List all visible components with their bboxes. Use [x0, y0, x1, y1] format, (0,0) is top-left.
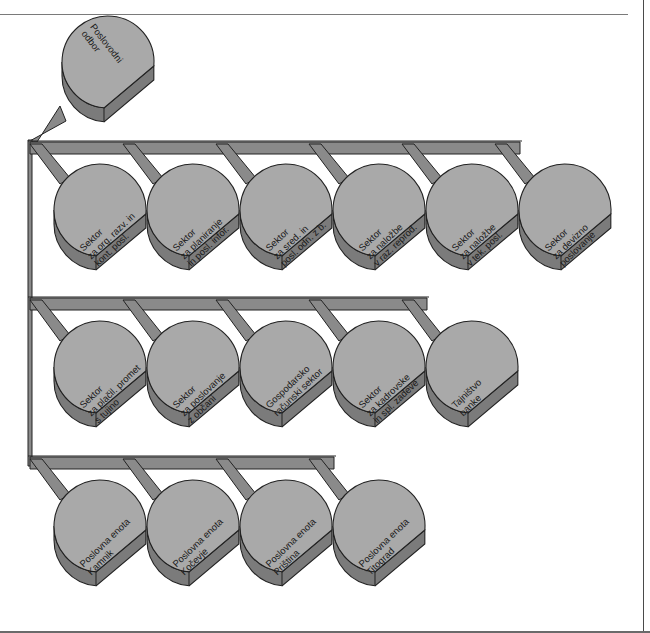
- bus-bar-row-3: [30, 457, 334, 469]
- root-diagonal-bar: [28, 106, 66, 142]
- bus-bar-row-1: [30, 142, 520, 154]
- org-chart: [0, 0, 650, 633]
